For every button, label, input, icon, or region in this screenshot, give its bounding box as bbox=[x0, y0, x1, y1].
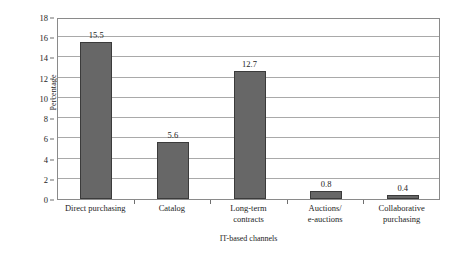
bar[interactable] bbox=[234, 71, 266, 199]
x-axis-category-label: Collaborativepurchasing bbox=[363, 203, 440, 225]
bar-group: 5.6 bbox=[157, 19, 189, 199]
plot-area: 15.55.612.70.80.4 bbox=[57, 18, 440, 200]
bar[interactable] bbox=[310, 191, 342, 199]
x-axis-category-label: Long-termcontracts bbox=[210, 203, 287, 225]
bar-value-label: 12.7 bbox=[220, 59, 280, 69]
y-axis-tick-label: 18 bbox=[40, 13, 49, 23]
x-axis-category-line: Long-term bbox=[210, 203, 287, 214]
y-axis-tick-mark bbox=[50, 98, 54, 99]
x-axis-category-labels: Direct purchasingCatalogLong-termcontrac… bbox=[57, 203, 440, 237]
x-axis-category-line: Collaborative bbox=[363, 203, 440, 214]
y-axis-tick-mark bbox=[50, 200, 54, 201]
x-axis-category-line: Catalog bbox=[134, 203, 211, 214]
bar[interactable] bbox=[80, 42, 112, 199]
bar-value-label: 0.8 bbox=[296, 179, 356, 189]
bar[interactable] bbox=[157, 142, 189, 199]
y-axis-tick-label: 16 bbox=[40, 33, 49, 43]
x-axis-category-line: Direct purchasing bbox=[57, 203, 134, 214]
y-axis-tick-mark bbox=[50, 139, 54, 140]
bar-value-label: 5.6 bbox=[143, 130, 203, 140]
y-axis-tick-label: 4 bbox=[44, 155, 48, 165]
y-axis-tick-label: 10 bbox=[40, 94, 49, 104]
y-axis-tick-mark bbox=[50, 159, 54, 160]
bar-group: 0.4 bbox=[387, 19, 419, 199]
bars-layer: 15.55.612.70.80.4 bbox=[58, 19, 439, 199]
y-axis-tick-label: 8 bbox=[44, 114, 48, 124]
bar-group: 12.7 bbox=[234, 19, 266, 199]
y-axis-tick-mark bbox=[50, 179, 54, 180]
y-axis-tick-label: 14 bbox=[40, 53, 49, 63]
x-axis-category-line: purchasing bbox=[363, 214, 440, 225]
y-axis-tick-labels: 024681012141618 bbox=[0, 18, 54, 200]
y-axis-tick-label: 6 bbox=[44, 134, 48, 144]
y-axis-tick-mark bbox=[50, 119, 54, 120]
bar-group: 15.5 bbox=[80, 19, 112, 199]
x-axis-category-line: e-auctions bbox=[287, 214, 364, 225]
bar-group: 0.8 bbox=[310, 19, 342, 199]
y-axis-tick-mark bbox=[50, 78, 54, 79]
x-axis-category-line: Auctions/ bbox=[287, 203, 364, 214]
y-axis-tick-label: 12 bbox=[40, 74, 49, 84]
bar-value-label: 15.5 bbox=[66, 30, 126, 40]
y-axis-tick-mark bbox=[50, 38, 54, 39]
x-axis-category-label: Auctions/e-auctions bbox=[287, 203, 364, 225]
y-axis-tick-mark bbox=[50, 58, 54, 59]
bar-value-label: 0.4 bbox=[373, 183, 433, 193]
y-axis-tick-label: 2 bbox=[44, 175, 48, 185]
y-axis-tick-mark bbox=[50, 18, 54, 19]
x-axis-title: IT-based channels bbox=[57, 234, 440, 243]
bar-chart-figure: Percentage 024681012141618 15.55.612.70.… bbox=[0, 0, 466, 256]
x-axis-category-line: contracts bbox=[210, 214, 287, 225]
y-axis-tick-label: 0 bbox=[44, 195, 48, 205]
x-axis-category-label: Direct purchasing bbox=[57, 203, 134, 214]
x-axis-category-label: Catalog bbox=[134, 203, 211, 214]
bar[interactable] bbox=[387, 195, 419, 199]
